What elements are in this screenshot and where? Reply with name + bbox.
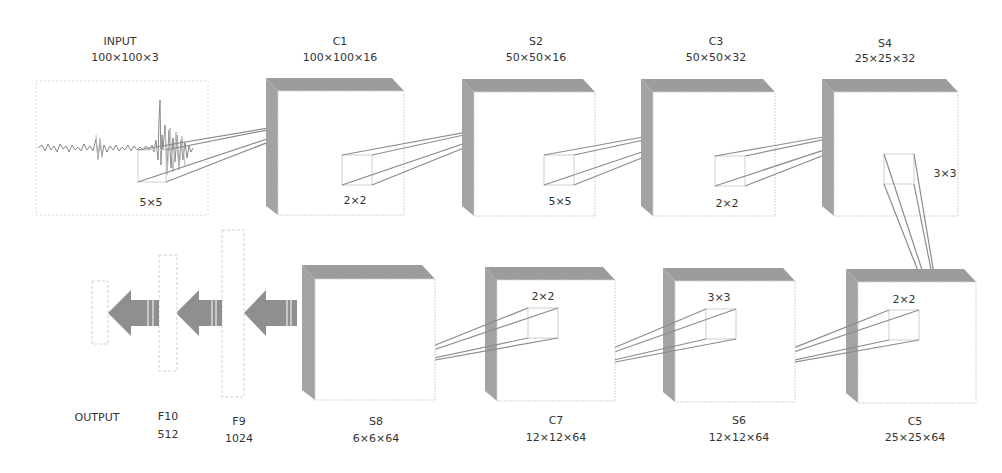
c1-kernel-label: 2×2: [343, 194, 366, 207]
arrow-f9-to-f10: [176, 290, 222, 336]
s2-label: S2: [529, 35, 543, 48]
layer-c5: 2×2 C5 25×25×64: [846, 269, 976, 444]
c7-dims: 12×12×64: [526, 431, 586, 444]
c7-kernel-label: 2×2: [531, 290, 554, 303]
c7-top-face: [485, 267, 615, 280]
s8-label: S8: [369, 415, 383, 428]
layer-c7: 2×2 C7 12×12×64: [485, 267, 615, 444]
c5-side-face: [846, 269, 858, 403]
layer-c3: C3 50×50×32 2×2: [641, 35, 775, 216]
cnn-diagram: INPUT 100×100×3 5×5 C1 100×100×16 2×2: [0, 0, 1002, 473]
arrow-f10-to-output: [108, 290, 159, 336]
s6-side-face: [663, 268, 675, 402]
s2-side-face: [462, 79, 474, 216]
layer-output: OUTPUT: [75, 281, 120, 424]
output-neuron-column: [92, 281, 108, 344]
f10-label: F10: [158, 410, 178, 423]
c3-label: C3: [709, 35, 724, 48]
c3-side-face: [641, 79, 653, 216]
input-dims: 100×100×3: [91, 51, 158, 64]
layer-f9: F9 1024: [222, 230, 253, 445]
input-signal-plot: [36, 81, 208, 215]
s6-label: S6: [732, 414, 746, 427]
s8-front-face: [315, 279, 435, 400]
layer-s2: S2 50×50×16 5×5: [462, 35, 595, 216]
s8-top-face: [302, 265, 435, 279]
c3-top-face: [641, 79, 775, 92]
c5-dims: 25×25×64: [885, 431, 945, 444]
layer-f10: F10 512: [158, 255, 179, 441]
c1-dims: 100×100×16: [303, 51, 377, 64]
s4-dims: 25×25×32: [855, 52, 915, 65]
s2-top-face: [462, 79, 595, 92]
layer-s4: S4 25×25×32 3×3: [822, 37, 958, 216]
output-label: OUTPUT: [75, 411, 120, 424]
s4-top-face: [822, 79, 958, 92]
s6-top-face: [663, 268, 795, 281]
f9-dims: 1024: [225, 432, 253, 445]
f10-dims: 512: [158, 428, 179, 441]
f9-label: F9: [232, 415, 245, 428]
c1-side-face: [266, 78, 278, 215]
c3-dims: 50×50×32: [686, 51, 746, 64]
input-kernel-label: 5×5: [139, 196, 162, 209]
c7-label: C7: [549, 414, 564, 427]
input-label: INPUT: [104, 35, 137, 48]
c1-top-face: [266, 78, 404, 91]
c1-label: C1: [333, 35, 348, 48]
s8-side-face: [302, 265, 315, 400]
s4-label: S4: [878, 37, 892, 50]
s2-kernel-label: 5×5: [548, 195, 571, 208]
c5-kernel-label: 2×2: [892, 293, 915, 306]
layer-s6: 3×3 S6 12×12×64: [663, 268, 795, 444]
f10-neuron-column: [159, 255, 177, 371]
s6-kernel-label: 3×3: [707, 291, 730, 304]
s2-dims: 50×50×16: [506, 51, 566, 64]
c3-kernel-label: 2×2: [715, 197, 738, 210]
c1-front-face: [278, 91, 404, 215]
layer-c1: C1 100×100×16 2×2: [266, 35, 404, 215]
c5-label: C5: [908, 415, 923, 428]
arrow-s8-to-f9: [244, 290, 297, 336]
s4-kernel-label: 3×3: [933, 167, 956, 180]
f9-neuron-column: [222, 230, 244, 397]
c5-top-face: [846, 269, 976, 282]
s8-dims: 6×6×64: [353, 432, 399, 445]
s4-side-face: [822, 79, 834, 216]
s6-dims: 12×12×64: [709, 431, 769, 444]
layer-s8: S8 6×6×64: [302, 265, 435, 445]
c7-side-face: [485, 267, 497, 401]
input-block: INPUT 100×100×3 5×5: [36, 35, 208, 215]
